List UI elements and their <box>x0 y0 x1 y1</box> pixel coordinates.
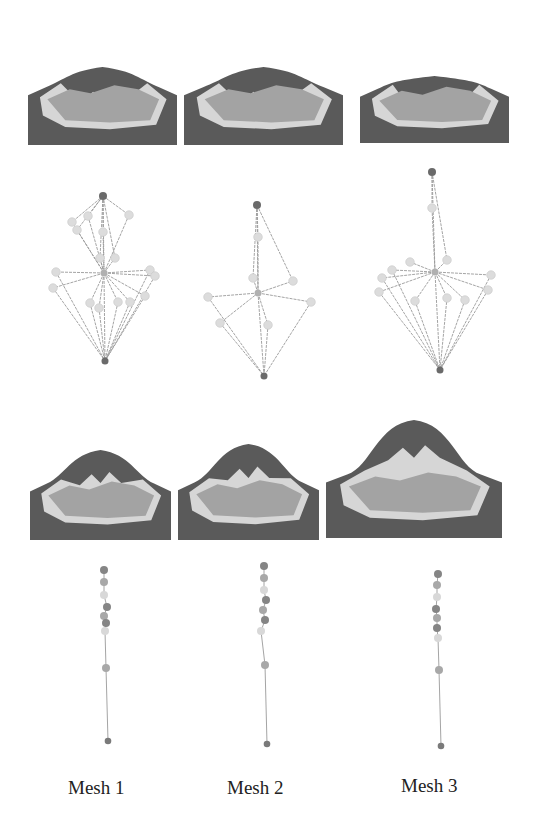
graph-node <box>411 297 420 306</box>
chain-node <box>260 586 268 594</box>
graph-node <box>141 292 150 301</box>
graph-root-node <box>99 192 107 200</box>
graph-node <box>111 254 120 263</box>
graph-node <box>443 294 452 303</box>
chain-node <box>100 566 108 574</box>
graph-node <box>99 228 108 237</box>
chain-node <box>261 661 269 669</box>
chain-node <box>100 578 108 586</box>
graph-node <box>95 304 104 313</box>
terrain-render-r1c3 <box>360 76 509 143</box>
graph-node <box>443 256 452 265</box>
graph-node <box>484 286 493 295</box>
graph-node <box>96 254 105 263</box>
terrain-render-r2c3 <box>326 420 502 538</box>
chain-node <box>101 627 109 635</box>
graph-hub-node <box>101 270 108 277</box>
chain-node <box>102 664 110 672</box>
caption-mesh-3: Mesh 3 <box>401 775 457 797</box>
caption-mesh-1: Mesh 1 <box>68 777 124 799</box>
graph-node <box>249 274 258 283</box>
chain-node <box>433 593 441 601</box>
chain-node <box>432 605 440 613</box>
graph-leaf-node <box>437 367 444 374</box>
graph-node <box>84 212 93 221</box>
graph-node <box>52 268 61 277</box>
chain-node <box>260 574 268 582</box>
graph-diagram-mesh-2 <box>204 201 316 380</box>
graph-node <box>151 272 160 281</box>
graph-node <box>487 271 496 280</box>
graph-node <box>49 284 58 293</box>
chain-end-node <box>105 738 112 745</box>
graph-node <box>461 296 470 305</box>
graph-node <box>86 299 95 308</box>
graph-hub-node <box>432 269 439 276</box>
chain-node <box>434 570 442 578</box>
graph-node <box>375 288 384 297</box>
graph-node <box>378 274 387 283</box>
chain-node <box>435 666 443 674</box>
graph-node <box>125 211 134 220</box>
graph-node <box>126 298 135 307</box>
chain-node <box>261 616 269 624</box>
figure-canvas <box>0 0 554 827</box>
terrain-render-r2c1 <box>30 450 171 540</box>
chain-diagram-mesh-2 <box>257 562 270 747</box>
chain-node <box>102 619 110 627</box>
chain-diagram-mesh-3 <box>432 570 444 749</box>
chain-node <box>434 634 442 642</box>
chain-diagram-mesh-1 <box>100 566 111 744</box>
terrain-render-r2c2 <box>178 444 319 540</box>
chain-node <box>103 603 111 611</box>
caption-mesh-2: Mesh 2 <box>227 777 283 799</box>
graph-node <box>264 321 273 330</box>
chain-node <box>100 612 108 620</box>
graph-diagram-mesh-1 <box>49 192 160 365</box>
chain-node <box>433 624 441 632</box>
graph-node <box>73 226 82 235</box>
chain-node <box>433 581 441 589</box>
chain-node <box>433 614 441 622</box>
chain-node <box>260 562 268 570</box>
graph-node <box>216 319 225 328</box>
chain-node <box>100 591 108 599</box>
graph-leaf-node <box>102 358 109 365</box>
chain-end-node <box>438 743 445 750</box>
graph-root-node <box>253 201 261 209</box>
chain-node <box>262 596 270 604</box>
terrain-render-r1c1 <box>28 67 177 145</box>
graph-leaf-node <box>261 373 268 380</box>
graph-node <box>388 266 397 275</box>
graph-node <box>254 233 263 242</box>
graph-node <box>307 298 316 307</box>
chain-node <box>259 606 267 614</box>
graph-node <box>114 298 123 307</box>
graph-node <box>406 258 415 267</box>
graph-diagram-mesh-3 <box>375 168 496 374</box>
graph-node <box>289 277 298 286</box>
chain-end-node <box>264 741 271 748</box>
graph-node <box>68 218 77 227</box>
chain-node <box>257 627 265 635</box>
terrain-render-r1c2 <box>184 67 343 145</box>
graph-hub-node <box>255 290 262 297</box>
graph-root-node <box>428 168 436 176</box>
graph-node <box>428 204 437 213</box>
graph-node <box>204 293 213 302</box>
